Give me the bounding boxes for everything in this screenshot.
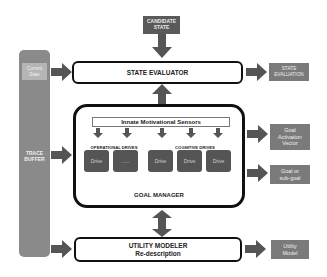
innate-motivational-sensors: Innate Motivational Sensors	[92, 117, 230, 127]
double-arrow-icon	[151, 210, 173, 238]
operational-drive: Drive	[84, 150, 109, 172]
goal-or-subgoal-box: Goal or sub-goal	[270, 165, 310, 184]
arrow-down-icon	[150, 34, 174, 60]
arrow-down-icon	[122, 128, 132, 138]
arrow-right-icon	[51, 63, 73, 81]
cognitive-drive: Drive	[177, 150, 202, 172]
state-evaluation-box: STATE EVALUATION	[269, 63, 309, 81]
cognitive-drive: Drive	[206, 150, 231, 172]
arrow-down-icon	[186, 128, 196, 138]
operational-drive-more: ......	[113, 150, 138, 172]
arrow-right-icon	[247, 125, 269, 143]
arrow-right-icon	[51, 240, 73, 258]
candidate-state-box: CANDIDATE STATE	[143, 16, 180, 34]
arrow-right-icon	[245, 240, 267, 258]
arrow-down-icon	[93, 128, 103, 138]
utility-modeler-title: UTILITY MODELER	[129, 242, 188, 249]
current-state-box: Current State	[22, 63, 47, 80]
cognitive-drive: Drive	[148, 150, 173, 172]
arrow-right-icon	[247, 164, 269, 182]
utility-modeler-subtitle: Re-description	[135, 250, 181, 257]
goal-activation-vector-box: Goal Activation Vector	[270, 124, 310, 150]
state-evaluator-box: STATE EVALUATOR	[72, 61, 243, 84]
arrow-up-icon	[150, 84, 174, 106]
goal-manager-label: GOAL MANAGER	[73, 192, 245, 198]
utility-model-box: Utility Model	[271, 240, 309, 259]
arrow-right-icon	[246, 63, 268, 81]
state-evaluator-label: STATE EVALUATOR	[127, 69, 189, 76]
arrow-right-icon	[51, 146, 73, 164]
arrow-down-icon	[213, 128, 223, 138]
arrow-down-icon	[157, 128, 167, 138]
utility-modeler-box: UTILITY MODELER Re-description	[74, 237, 242, 262]
trace-buffer-label: TRACE BUFFER	[19, 150, 50, 162]
